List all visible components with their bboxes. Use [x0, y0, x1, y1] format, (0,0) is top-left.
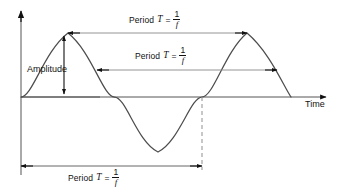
period-middle-numerator: 1: [180, 46, 187, 55]
period-middle-symbol: T: [162, 51, 168, 61]
period-top-equals: =: [164, 16, 171, 25]
period-bottom-fraction: 1 f: [112, 168, 119, 188]
period-middle-word: Period: [135, 52, 160, 61]
period-top-fraction: 1 f: [173, 10, 180, 30]
period-top-symbol: T: [156, 15, 162, 25]
period-middle-equals: =: [170, 52, 177, 61]
period-middle-denominator: f: [181, 56, 186, 66]
period-bottom-symbol: T: [95, 173, 101, 183]
period-top-denominator: f: [175, 20, 180, 30]
period-bottom-label: Period T = 1 f: [68, 168, 119, 188]
period-bottom-equals: =: [103, 174, 110, 183]
time-axis-label: Time: [305, 100, 325, 109]
period-middle-label: Period T = 1 f: [135, 46, 186, 66]
period-middle-fraction: 1 f: [179, 46, 186, 66]
period-top-numerator: 1: [174, 10, 181, 19]
period-bottom-denominator: f: [114, 178, 119, 188]
period-bottom-word: Period: [68, 174, 93, 183]
waveform-diagram: Period T = 1 f Period T = 1 f Period T: [0, 0, 341, 191]
amplitude-label: Amplitude: [27, 65, 67, 74]
period-top-word: Period: [129, 16, 154, 25]
period-top-label: Period T = 1 f: [129, 10, 180, 30]
period-bottom-numerator: 1: [113, 168, 120, 177]
